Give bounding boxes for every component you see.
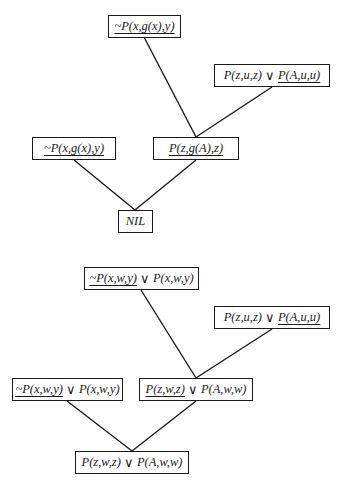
edge-n4-n5 (135, 160, 196, 210)
clause-node-m5: P(z,w,z) ∨ P(A,w,w) (75, 451, 189, 474)
edge-n1-n4 (144, 37, 196, 137)
literal: P(z,u,z) (224, 310, 262, 325)
literal: ~P(x,g(x),y) (44, 141, 104, 156)
edge-m1-m4 (141, 290, 196, 378)
edge-m2-m4 (196, 329, 272, 378)
clause-node-n3: ~P(x,g(x),y) (32, 137, 116, 160)
literal: P(A,w,w) (137, 455, 183, 470)
or-symbol: ∨ (265, 310, 275, 326)
or-symbol: ∨ (188, 382, 198, 398)
clause-node-n2: P(z,u,z) ∨ P(A,u,u) (214, 64, 330, 87)
edge-m4-m5 (132, 401, 196, 451)
clause-node-n4: P(z,g(A),z) (153, 137, 239, 160)
literal: P(A,u,u) (278, 68, 320, 83)
edge-n3-n5 (74, 160, 135, 210)
literal: NIL (126, 214, 145, 229)
literal: ~P(x,w,y) (15, 382, 62, 397)
literal: ~P(x,w,y) (89, 271, 136, 286)
literal: P(x,w,y) (79, 382, 120, 397)
clause-node-nil: NIL (118, 210, 153, 233)
clause-node-n1: ~P(x,g(x),y) (108, 15, 181, 38)
literal: P(z,u,z) (224, 68, 262, 83)
clause-node-m4: P(z,w,z) ∨ P(A,w,w) (139, 378, 253, 401)
literal: P(z,g(A),z) (169, 141, 223, 156)
clause-node-m1: ~P(x,w,y) ∨ P(x,w,y) (84, 267, 199, 290)
edge-m3-m5 (67, 401, 132, 451)
or-symbol: ∨ (265, 68, 275, 84)
literal: ~P(x,g(x),y) (114, 19, 174, 34)
literal: P(A,u,u) (278, 310, 320, 325)
literal: P(x,w,y) (153, 271, 194, 286)
clause-node-m2: P(z,u,z) ∨ P(A,u,u) (214, 306, 330, 329)
literal: P(A,w,w) (201, 382, 247, 397)
or-symbol: ∨ (66, 382, 76, 398)
edge-n2-n4 (196, 87, 272, 137)
or-symbol: ∨ (140, 271, 150, 287)
or-symbol: ∨ (124, 455, 134, 471)
clause-node-m3: ~P(x,w,y) ∨ P(x,w,y) (12, 378, 123, 401)
literal: P(z,w,z) (82, 455, 121, 470)
literal: P(z,w,z) (146, 382, 185, 397)
